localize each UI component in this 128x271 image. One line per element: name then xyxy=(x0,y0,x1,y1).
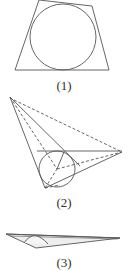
figure-label-3: (3) xyxy=(56,256,71,269)
geometry-diagrams xyxy=(0,0,128,271)
figure-1 xyxy=(15,0,109,70)
figure-label-1: (1) xyxy=(56,79,71,92)
hidden-edges xyxy=(10,97,122,188)
inscribed-circle xyxy=(30,4,96,70)
figure-label-2: (2) xyxy=(56,196,71,209)
radius xyxy=(57,152,64,169)
figure-2 xyxy=(10,97,122,188)
figure-3 xyxy=(6,234,120,248)
quadrilateral xyxy=(15,0,109,70)
